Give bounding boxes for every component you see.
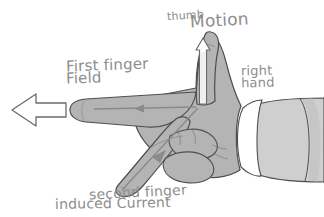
label-thumb: thumb [167,9,205,23]
label-right-hand-line2: hand [241,76,275,90]
fleming-right-hand-rule-figure: Motion thumb First finger Field right ha… [0,0,324,217]
field-block-arrow [12,94,66,126]
label-induced-current: induced Current [55,195,171,211]
curled-finger-lower [163,152,214,183]
label-field: Field [66,70,102,87]
field-block-arrow-shape [12,94,66,126]
label-right-hand: right hand [241,64,275,90]
motion-arrow-stem-shade [201,52,206,103]
